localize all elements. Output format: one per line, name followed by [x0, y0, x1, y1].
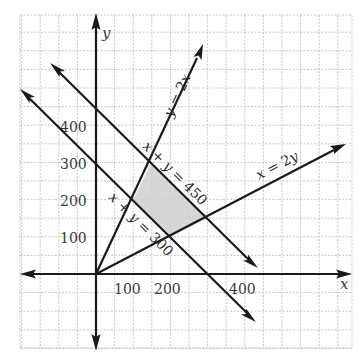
arrow-icon	[194, 44, 204, 60]
x-axis	[20, 270, 352, 279]
x-tick-400: 400	[229, 281, 256, 297]
y-tick-300: 300	[60, 156, 87, 172]
x-tick-100: 100	[114, 281, 141, 297]
x-tick-200: 200	[154, 281, 181, 297]
y-axis-label: y	[101, 24, 111, 42]
linear-programming-graph: x y 100 200 400 400 300 200 100 y = 2x x…	[0, 0, 361, 359]
y-axis	[92, 13, 101, 351]
y-tick-200: 200	[60, 193, 87, 209]
x-axis-label: x	[340, 275, 349, 293]
y-tick-100: 100	[60, 230, 87, 246]
y-tick-400: 400	[60, 119, 87, 135]
label-x-equals-2y: x = 2y	[253, 147, 302, 183]
